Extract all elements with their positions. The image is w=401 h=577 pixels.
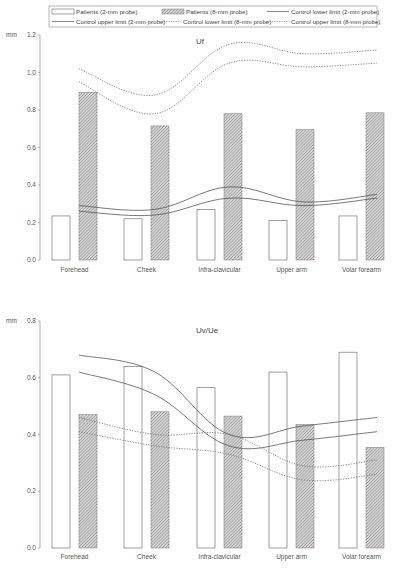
category-label: Forehead [61, 266, 89, 273]
y-tick-label: 0.0 [27, 544, 36, 551]
legend-swatch-open-bar [52, 9, 74, 14]
bar-2mm [197, 388, 215, 548]
y-tick-label: 1.0 [27, 69, 36, 76]
category-label: Upper arm [276, 553, 307, 561]
y-tick-label: 0.8 [27, 317, 36, 324]
chart-figure: Patients (2-mm probe) Patients (8-mm pro… [0, 0, 401, 577]
y-tick-label: 0.8 [27, 106, 36, 113]
control-line-8mm [79, 60, 377, 114]
control-line-8mm [79, 42, 377, 95]
bar-8mm [366, 113, 384, 260]
category-label: Cheek [137, 266, 157, 273]
bar-2mm [124, 219, 142, 260]
bar-8mm [366, 447, 384, 548]
legend-label: Control lower limit (8-mm probe) [183, 18, 271, 25]
bar-8mm [79, 92, 97, 260]
legend-label: Control upper limit (2-mm probe) [76, 18, 165, 25]
legend-label: Patients (8-mm probe) [186, 8, 248, 15]
category-label: Volar forearm [342, 553, 381, 560]
bar-2mm [339, 352, 357, 548]
bar-2mm [339, 216, 357, 260]
uv-ue-chart: 0.00.20.40.60.8mmUv/UeForeheadCheekInfra… [6, 317, 384, 561]
bar-2mm [52, 216, 70, 260]
y-axis-unit: mm [6, 31, 17, 38]
y-axis-unit: mm [6, 317, 17, 324]
bar-8mm [151, 126, 169, 260]
bar-8mm [296, 425, 314, 548]
bar-2mm [52, 375, 70, 548]
y-tick-label: 0.4 [27, 181, 36, 188]
category-label: Infra-clavicular [198, 553, 241, 560]
legend-label: Control lower limit (2-mm probe) [291, 8, 379, 15]
y-tick-label: 0.0 [27, 256, 36, 263]
legend: Patients (2-mm probe) Patients (8-mm pro… [49, 6, 380, 27]
uf-chart: 0.00.20.40.60.81.01.2mmUfForeheadCheekIn… [6, 31, 384, 274]
y-tick-label: 0.4 [27, 431, 36, 438]
y-tick-label: 0.2 [27, 487, 36, 494]
legend-label: Patients (2-mm probe) [76, 8, 138, 15]
category-label: Forehead [61, 553, 89, 560]
bar-8mm [296, 130, 314, 260]
bar-2mm [124, 366, 142, 548]
y-tick-label: 0.6 [27, 374, 36, 381]
y-tick-label: 0.6 [27, 144, 36, 151]
bar-2mm [197, 209, 215, 260]
y-tick-label: 1.2 [27, 31, 36, 38]
chart-title: Uv/Ue [196, 326, 219, 335]
legend-swatch-hatched-bar [162, 9, 184, 14]
legend-label: Control upper limit (8-mm probe) [291, 18, 380, 25]
y-tick-label: 0.2 [27, 219, 36, 226]
category-label: Infra-clavicular [198, 266, 241, 273]
bar-8mm [151, 412, 169, 548]
bar-2mm [269, 221, 287, 260]
category-label: Upper arm [276, 266, 307, 274]
chart-title: Uf [196, 37, 205, 46]
category-label: Cheek [137, 553, 157, 560]
category-label: Volar forearm [342, 266, 381, 273]
